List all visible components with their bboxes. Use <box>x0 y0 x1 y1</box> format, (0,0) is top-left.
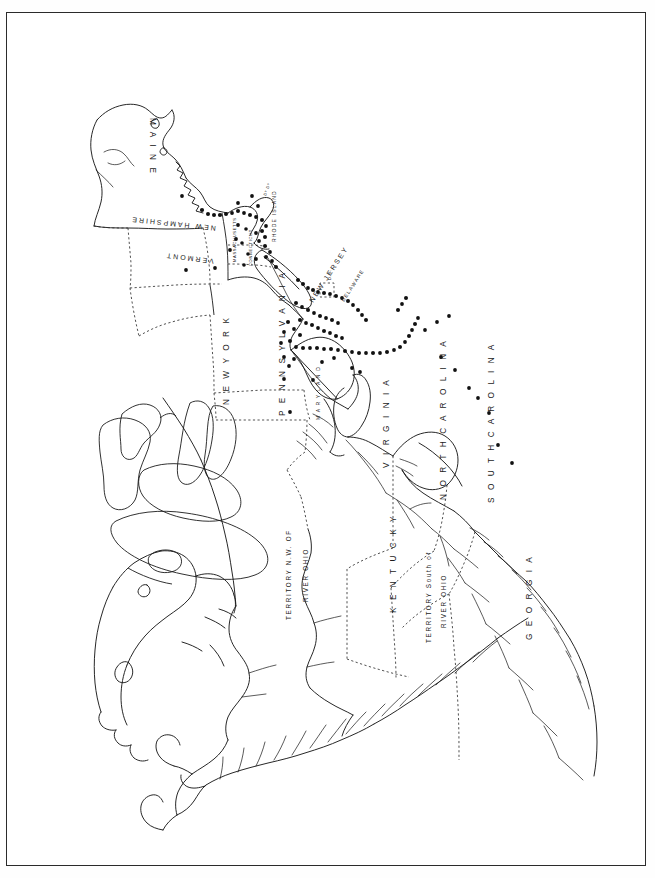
map-page: M A I N E NEW HAMPSHIRE VERMONT MASSACHU… <box>0 0 655 878</box>
label-massachusetts: MASSACHUSETTS <box>232 217 237 262</box>
label-connecticut: CONNECTICUT <box>248 229 253 266</box>
label-south-territory-line1: TERRITORY South of <box>425 551 432 643</box>
label-rhode-island: RHODE ISLAND <box>271 190 277 242</box>
label-nw-territory-line2: RIVER OHIO <box>302 548 309 602</box>
label-south-carolina: S O U T H C A R O L I N A <box>487 342 496 503</box>
label-maryland: M A R Y L A N D <box>315 366 321 420</box>
peninsula-outline <box>94 551 236 725</box>
label-south-territory-line2: RIVER OHIO <box>440 574 447 628</box>
label-maine: M A I N E <box>148 118 157 176</box>
label-new-hampshire: NEW HAMPSHIRE <box>130 216 216 232</box>
label-north-carolina: N O R T H C A R O L I N A <box>439 339 448 500</box>
northeast-coastline <box>91 104 228 229</box>
label-kentucky: K E N T U C K Y <box>389 514 398 613</box>
label-georgia: G E O R G I A <box>525 555 534 640</box>
label-virginia: V I R G I N I A <box>382 378 391 468</box>
label-new-york: N E W Y O R K <box>222 316 231 405</box>
interior-borders <box>301 456 475 760</box>
label-nw-territory-line1: TERRITORY N.W. OF <box>285 529 292 620</box>
label-delaware: DELAWARE <box>340 268 365 303</box>
map-canvas: M A I N E NEW HAMPSHIRE VERMONT MASSACHU… <box>0 0 655 878</box>
label-district-of-columbia: D.C. <box>327 269 332 280</box>
southeast-rivers <box>346 440 583 780</box>
label-vermont: VERMONT <box>165 252 214 265</box>
southeast-coastline <box>348 432 597 776</box>
ohio-mississippi-rivers <box>163 398 353 815</box>
label-pennsylvania: P E N N S Y L V A N I A <box>278 270 287 416</box>
